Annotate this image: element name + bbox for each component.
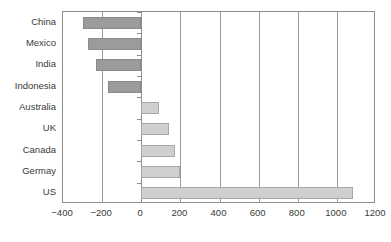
y-label-germay: Germay — [22, 166, 56, 176]
y-tick-mark — [137, 140, 141, 141]
gridline — [298, 12, 299, 202]
x-tick-label: −400 — [51, 207, 72, 219]
gridline — [259, 12, 260, 202]
bar-us — [141, 187, 353, 199]
x-tick-label: 200 — [171, 207, 187, 219]
x-axis-tick-labels: −400−200020040060080010001200 — [0, 207, 391, 223]
gridline — [337, 12, 338, 202]
y-label-uk: UK — [43, 123, 56, 133]
y-label-china: China — [31, 17, 56, 27]
plot-area — [62, 11, 375, 203]
y-label-mexico: Mexico — [26, 38, 56, 48]
x-tick-label: 600 — [250, 207, 266, 219]
bar-canada — [141, 145, 175, 157]
y-tick-mark — [137, 97, 141, 98]
gridline — [220, 12, 221, 202]
x-tick-label: −200 — [90, 207, 111, 219]
x-tick-label: 800 — [289, 207, 305, 219]
y-label-indonesia: Indonesia — [15, 81, 56, 91]
y-label-canada: Canada — [23, 145, 56, 155]
bar-germay — [141, 166, 180, 178]
y-tick-mark — [137, 161, 141, 162]
bar-uk — [141, 123, 169, 135]
y-tick-mark — [137, 183, 141, 184]
bar-mexico — [88, 38, 141, 50]
y-tick-mark — [137, 33, 141, 34]
y-tick-mark — [137, 119, 141, 120]
y-tick-mark — [137, 76, 141, 77]
bar-chart: ChinaMexicoIndiaIndonesiaAustraliaUKCana… — [0, 0, 391, 242]
y-axis-category-labels: ChinaMexicoIndiaIndonesiaAustraliaUKCana… — [0, 11, 58, 203]
bar-australia — [141, 102, 159, 114]
y-label-australia: Australia — [19, 102, 56, 112]
y-label-us: US — [43, 187, 56, 197]
x-tick-label: 1200 — [364, 207, 385, 219]
bar-china — [83, 17, 141, 29]
x-tick-label: 1000 — [325, 207, 346, 219]
bar-india — [96, 59, 141, 71]
x-tick-label: 400 — [211, 207, 227, 219]
y-tick-mark — [137, 12, 141, 13]
bar-indonesia — [108, 81, 141, 93]
x-tick-label: 0 — [138, 207, 143, 219]
y-label-india: India — [35, 59, 56, 69]
gridline — [180, 12, 181, 202]
y-tick-mark — [137, 55, 141, 56]
